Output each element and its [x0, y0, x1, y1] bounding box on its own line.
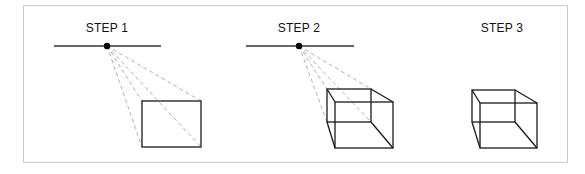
vanishing-point: [296, 43, 302, 49]
wireframe-box: [327, 89, 393, 148]
step-2-drawing: [246, 43, 393, 148]
vanishing-point: [104, 43, 110, 49]
front-face: [142, 101, 201, 147]
perspective-diagram: [0, 0, 585, 174]
projection-lines: [107, 46, 201, 147]
step-1-drawing: [54, 43, 201, 147]
step-3-finished-box: [472, 90, 537, 148]
